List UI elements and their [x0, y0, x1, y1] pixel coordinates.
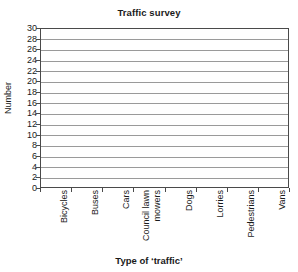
chart-title: Traffic survey [0, 7, 298, 18]
x-tick-label-line: Lorries [215, 190, 225, 218]
gridline [41, 50, 288, 51]
x-tick-label-line: Cars [121, 190, 131, 209]
x-tick-mark [289, 188, 290, 192]
y-tick-label: 20 [0, 77, 37, 86]
x-tick-label: Buses [90, 190, 102, 252]
gridline [41, 39, 288, 40]
y-tick-label: 12 [0, 120, 37, 129]
x-tick-label-line: Pedestrians [246, 190, 256, 238]
gridline [41, 157, 288, 158]
y-tick-label: 16 [0, 98, 37, 107]
y-tick-label: 28 [0, 34, 37, 43]
y-tick-mark [36, 71, 40, 72]
y-tick-mark [36, 156, 40, 157]
x-tick-mark [102, 188, 103, 192]
x-tick-mark [258, 188, 259, 192]
x-tick-label-line: Dogs [184, 190, 194, 211]
x-tick-label-line: Buses [90, 190, 100, 215]
gridline [41, 61, 288, 62]
y-tick-mark [36, 28, 40, 29]
x-tick-label: Lorries [215, 190, 227, 252]
y-tick-label: 14 [0, 109, 37, 118]
y-tick-label: 10 [0, 130, 37, 139]
y-tick-mark [36, 167, 40, 168]
x-tick-mark [196, 188, 197, 192]
y-tick-mark [36, 39, 40, 40]
x-tick-mark [71, 188, 72, 192]
traffic-survey-chart: Traffic survey Number 302826242220181614… [0, 0, 298, 272]
x-tick-mark [227, 188, 228, 192]
plot-area [40, 28, 289, 188]
gridline [41, 93, 288, 94]
x-tick-label-line: Vans [277, 190, 287, 210]
gridline [41, 114, 288, 115]
x-tick-label: Vans [277, 190, 289, 252]
y-tick-label: 4 [0, 162, 37, 171]
x-tick-label: Cars [121, 190, 133, 252]
gridline [41, 135, 288, 136]
gridline [41, 82, 288, 83]
y-axis-tick-labels: 302826242220181614121086420 [0, 28, 37, 188]
gridline [41, 178, 288, 179]
x-tick-mark [165, 188, 166, 192]
y-tick-label: 6 [0, 152, 37, 161]
x-tick-mark [40, 188, 41, 192]
gridline [41, 103, 288, 104]
y-tick-label: 18 [0, 88, 37, 97]
x-tick-label: Council lawnmowers [141, 190, 153, 252]
y-tick-mark [36, 92, 40, 93]
x-tick-label-line: Council lawn [141, 190, 151, 241]
gridline [41, 146, 288, 147]
y-tick-label: 2 [0, 173, 37, 182]
x-axis-title: Type of ‘traffic’ [0, 255, 298, 266]
x-tick-mark [133, 188, 134, 192]
y-tick-mark [36, 145, 40, 146]
y-tick-label: 30 [0, 24, 37, 33]
y-tick-label: 24 [0, 56, 37, 65]
x-tick-label: Bicycles [59, 190, 71, 252]
y-tick-label: 26 [0, 45, 37, 54]
x-tick-label: Dogs [184, 190, 196, 252]
y-tick-mark [36, 177, 40, 178]
y-tick-mark [36, 135, 40, 136]
y-tick-label: 22 [0, 66, 37, 75]
y-tick-label: 8 [0, 141, 37, 150]
gridline [41, 125, 288, 126]
x-axis-tick-labels: BicyclesBusesCarsCouncil lawnmowersDogsL… [40, 192, 289, 254]
y-tick-mark [36, 60, 40, 61]
gridline [41, 71, 288, 72]
y-tick-mark [36, 124, 40, 125]
y-tick-mark [36, 103, 40, 104]
x-tick-label-line: Bicycles [59, 190, 69, 223]
y-tick-label: 0 [0, 184, 37, 193]
x-tick-label: Pedestrians [246, 190, 258, 252]
gridline [41, 167, 288, 168]
series-layer [41, 29, 288, 187]
y-tick-mark [36, 113, 40, 114]
y-tick-mark [36, 49, 40, 50]
x-tick-label-line: mowers [152, 190, 162, 252]
y-tick-mark [36, 81, 40, 82]
